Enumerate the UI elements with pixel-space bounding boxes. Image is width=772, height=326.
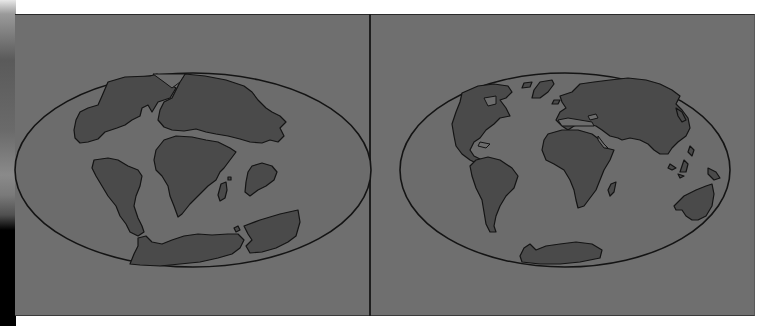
map-modern-world	[400, 73, 730, 267]
landmass-small-island	[228, 177, 231, 180]
map-pangaea	[15, 73, 371, 267]
landmass-iceland	[552, 100, 560, 104]
landmass-arctic-island	[522, 82, 532, 88]
landmass-small-island-2	[234, 226, 240, 232]
